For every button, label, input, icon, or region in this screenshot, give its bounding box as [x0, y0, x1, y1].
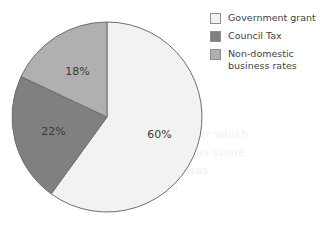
legend-label-council-tax: Council Tax: [228, 30, 282, 42]
legend-swatch-council-tax: [210, 31, 221, 42]
chart-legend: Government grant Council Tax Non-domesti…: [210, 12, 329, 77]
legend-swatch-non-domestic-business-rates: [210, 49, 221, 60]
pie-slice-label: 18%: [65, 65, 89, 78]
pie-slice-label: 60%: [147, 128, 171, 141]
legend-item-government-grant[interactable]: Government grant: [210, 12, 329, 24]
legend-item-council-tax[interactable]: Council Tax: [210, 30, 329, 42]
pie-slice-group: [12, 22, 202, 212]
pie-slice-label: 22%: [41, 125, 65, 138]
legend-label-non-domestic-business-rates: Non-domestic business rates: [228, 48, 297, 71]
legend-label-government-grant: Government grant: [228, 12, 316, 24]
pie-chart-figure: resources over which the council has som…: [0, 0, 329, 243]
legend-swatch-government-grant: [210, 13, 221, 24]
legend-item-non-domestic-business-rates[interactable]: Non-domestic business rates: [210, 48, 329, 71]
